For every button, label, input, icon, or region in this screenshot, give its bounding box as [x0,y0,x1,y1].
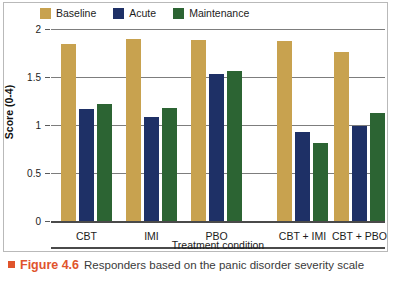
y-axis-label-wrap: Score (0-4) [2,73,16,163]
y-axis-tick-mark [45,29,50,30]
caption-bullet-icon [8,261,15,268]
bar [162,108,177,221]
legend-swatch-icon [173,8,184,19]
bar [126,39,141,221]
bar [313,143,328,221]
legend-item: Acute [113,8,156,19]
y-axis-tick-label: 0 [35,216,41,227]
bar [227,71,242,221]
y-axis-tick-mark [45,173,50,174]
bar [334,52,349,221]
bar [370,113,385,221]
figure-caption: Figure 4.6 Responders based on the panic… [8,258,394,272]
legend-item: Maintenance [173,8,249,19]
caption-text: Responders based on the panic disorder s… [84,259,364,271]
bar [144,117,159,221]
bar [79,109,94,221]
bar [209,74,224,221]
y-axis-tick-label: 0.5 [27,168,41,179]
bar [191,40,206,221]
legend-item-label: Acute [129,8,156,19]
legend-item-label: Maintenance [189,8,249,19]
chart-frame: BaselineAcuteMaintenance Score (0-4) 00.… [3,2,388,252]
y-axis-tick-mark [45,221,50,222]
bar [61,44,76,221]
y-axis-tick-mark [45,125,50,126]
legend-swatch-icon [113,8,124,19]
chart-legend: BaselineAcuteMaintenance [40,6,249,20]
bar [97,104,112,221]
y-axis-label: Score (0-4) [3,67,15,157]
figure-container: BaselineAcuteMaintenance Score (0-4) 00.… [0,0,396,281]
bar [295,132,310,221]
plot-area: 00.511.52 CBTIMIPBOCBT + IMICBT + PBO [51,29,385,221]
legend-swatch-icon [40,8,51,19]
bar [277,41,292,221]
y-axis-tick-label: 1 [35,120,41,131]
y-axis-tick-label: 2 [35,24,41,35]
y-axis-tick-label: 1.5 [27,72,41,83]
gridline [51,29,385,30]
x-axis-label: Treatment condition [51,239,385,251]
y-axis-tick-mark [45,77,50,78]
gridline [51,221,385,223]
legend-item-label: Baseline [56,8,96,19]
legend-item: Baseline [40,8,96,19]
caption-figure-number: Figure 4.6 [20,258,79,272]
bar [352,126,367,221]
